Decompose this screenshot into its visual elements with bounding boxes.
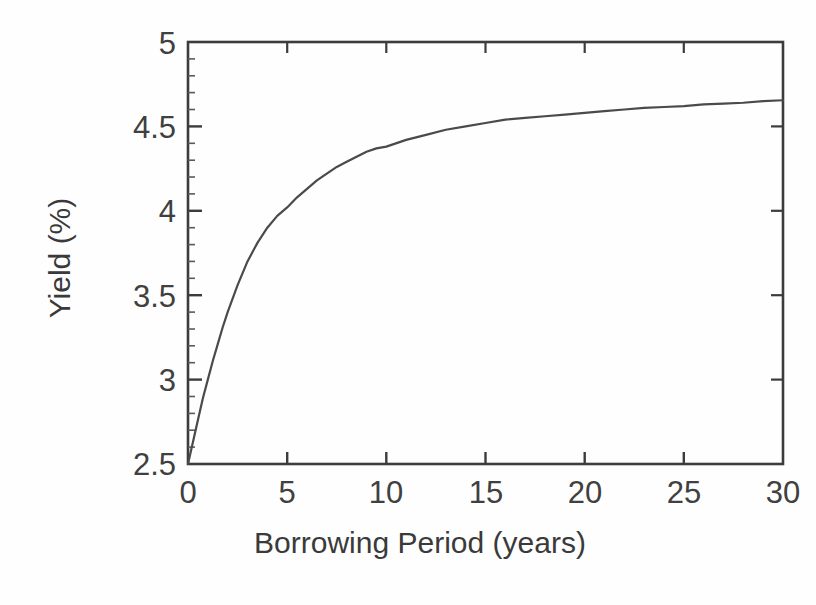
x-tick-label-20: 20 (568, 475, 602, 510)
yield-curve-chart: 5 4.5 4 3.5 3 2.5 0 5 10 15 20 25 30 Bor… (0, 0, 816, 605)
x-tick-label-30: 30 (766, 475, 800, 510)
y-tick-label-2-5: 2.5 (133, 447, 176, 482)
y-axis-major-ticks (188, 126, 202, 379)
x-axis-major-ticks (287, 452, 684, 464)
y-axis-right-ticks (771, 126, 783, 379)
x-tick-label-10: 10 (369, 475, 403, 510)
x-axis-top-ticks (287, 42, 684, 53)
x-tick-label-0: 0 (179, 475, 196, 510)
yield-curve-line (188, 100, 783, 464)
x-tick-label-15: 15 (469, 475, 503, 510)
y-tick-label-4: 4 (159, 194, 176, 229)
x-tick-label-5: 5 (278, 475, 295, 510)
chart-page: 5 4.5 4 3.5 3 2.5 0 5 10 15 20 25 30 Bor… (0, 0, 816, 605)
y-tick-label-4-5: 4.5 (133, 110, 176, 145)
x-tick-label-25: 25 (667, 475, 701, 510)
y-tick-label-3-5: 3.5 (133, 279, 176, 314)
y-axis-title: Yield (%) (43, 198, 76, 319)
x-axis-title: Borrowing Period (years) (254, 526, 586, 559)
y-tick-label-5: 5 (159, 26, 176, 61)
y-tick-label-3: 3 (159, 363, 176, 398)
